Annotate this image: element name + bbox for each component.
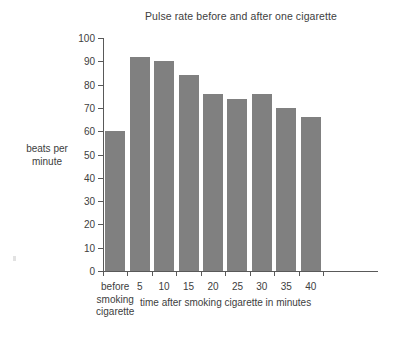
bar [252, 94, 272, 271]
x-axis-tick [323, 271, 324, 276]
x-axis-tick-label-line: 10 [159, 281, 170, 294]
y-axis-tick-label: 10 [84, 242, 95, 253]
x-axis-tick [274, 271, 275, 276]
x-axis-title: time after smoking cigarette in minutes [140, 297, 311, 308]
chart-title: Pulse rate before and after one cigarett… [103, 10, 379, 22]
y-axis-title-line-1: beats per [6, 142, 88, 155]
plot-area: 0102030405060708090100beforesmokingcigar… [103, 38, 323, 271]
y-axis-tick [98, 61, 103, 62]
y-axis-tick-label: 90 [84, 56, 95, 67]
y-axis-tick-label: 80 [84, 79, 95, 90]
y-axis-tick [98, 108, 103, 109]
x-axis-tick [299, 271, 300, 276]
bar [105, 131, 125, 271]
x-axis-tick-label-line: 20 [207, 281, 218, 294]
y-axis-tick-label: 100 [78, 33, 95, 44]
y-axis-tick-label: 60 [84, 126, 95, 137]
y-axis-tick [98, 201, 103, 202]
bar [130, 57, 150, 271]
y-axis-tick-label: 30 [84, 196, 95, 207]
x-axis-tick-label: 30 [256, 281, 267, 294]
y-axis-title: beats per minute [6, 142, 88, 168]
x-axis-tick-label-line: 25 [232, 281, 243, 294]
pulse-rate-bar-chart: Pulse rate before and after one cigarett… [0, 0, 395, 341]
x-axis-tick [201, 271, 202, 276]
x-axis-tick [250, 271, 251, 276]
bar [203, 94, 223, 271]
bar [154, 61, 174, 271]
y-axis-tick [98, 224, 103, 225]
y-axis-tick [98, 178, 103, 179]
x-axis-tick-label-line: 30 [256, 281, 267, 294]
y-axis-tick-label: 40 [84, 172, 95, 183]
bar [227, 99, 247, 271]
bar [301, 117, 321, 271]
x-axis-tick-label-line: before [86, 281, 144, 294]
x-axis-tick-label-line: 35 [281, 281, 292, 294]
x-axis-tick [152, 271, 153, 276]
y-axis-tick [98, 85, 103, 86]
bar [276, 108, 296, 271]
bar [179, 75, 199, 271]
x-axis-tick-label-line: smoking [86, 294, 144, 307]
y-axis-tick-label: 50 [84, 149, 95, 160]
y-axis-tick-label: 20 [84, 219, 95, 230]
x-axis-tick-label: 5 [137, 281, 143, 294]
x-axis-tick [127, 271, 128, 276]
stray-artifact-mark [13, 256, 16, 261]
y-axis-tick [98, 155, 103, 156]
x-axis-tick [103, 271, 104, 276]
y-axis-title-line-2: minute [6, 155, 88, 168]
y-axis-tick [98, 131, 103, 132]
x-axis-tick-label: 10 [159, 281, 170, 294]
x-axis-tick-label: 35 [281, 281, 292, 294]
x-axis-tick-label-line: 5 [137, 281, 143, 294]
x-axis-tick-label: 15 [183, 281, 194, 294]
x-axis-tick-label-line: 15 [183, 281, 194, 294]
y-axis-tick-label: 0 [89, 266, 95, 277]
y-axis-tick [98, 38, 103, 39]
x-axis-tick [225, 271, 226, 276]
x-axis-tick-label: 40 [305, 281, 316, 294]
x-axis-line [103, 271, 378, 272]
x-axis-tick-label-line: cigarette [86, 306, 144, 319]
x-axis-tick-label: 25 [232, 281, 243, 294]
y-axis-tick-label: 70 [84, 102, 95, 113]
x-axis-tick-label-line: 40 [305, 281, 316, 294]
x-axis-tick-label: beforesmokingcigarette [86, 281, 144, 319]
y-axis-tick [98, 248, 103, 249]
x-axis-tick [176, 271, 177, 276]
x-axis-tick-label: 20 [207, 281, 218, 294]
